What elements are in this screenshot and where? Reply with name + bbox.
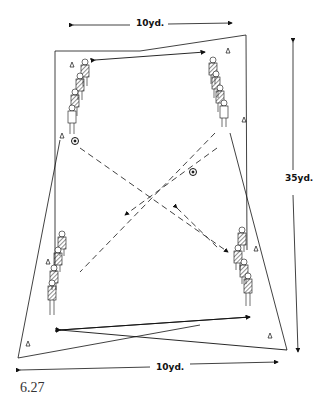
dimension-arrows bbox=[20, 23, 298, 370]
height-label: 35yd. bbox=[283, 173, 315, 183]
figure-caption: 6.27 bbox=[20, 380, 45, 396]
field-outline bbox=[18, 35, 287, 358]
top-width-label: 10yd. bbox=[134, 18, 166, 28]
pass-lines bbox=[80, 133, 228, 272]
bottom-width-label: 10yd. bbox=[154, 362, 186, 372]
players-top-left bbox=[68, 59, 89, 134]
players-top-right bbox=[209, 57, 228, 127]
cones bbox=[26, 48, 272, 346]
players-bottom-right bbox=[234, 227, 252, 306]
drill-diagram bbox=[0, 0, 327, 409]
players-bottom-left bbox=[48, 231, 66, 315]
run-arrows bbox=[60, 52, 287, 350]
balls bbox=[72, 138, 197, 176]
